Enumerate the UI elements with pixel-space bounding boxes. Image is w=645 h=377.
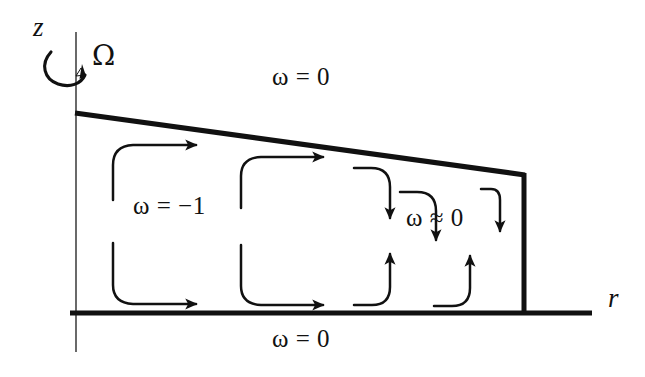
rotation-rate-label: Ω <box>92 42 115 70</box>
right-cell-vorticity-label: ω ≈ 0 <box>406 205 464 230</box>
left-cell-vorticity-label: ω = −1 <box>133 193 206 218</box>
r-axis-label: r <box>608 285 619 312</box>
streamline-cell-2 <box>241 157 390 305</box>
top-boundary-condition-label: ω = 0 <box>272 64 330 89</box>
flow-diagram: z Ω ω = 0 ω = −1 ω ≈ 0 ω = 0 r <box>0 0 645 377</box>
bottom-boundary-condition-label: ω = 0 <box>272 326 330 351</box>
streamline-cell-1 <box>113 145 196 304</box>
z-axis-label: z <box>33 14 44 41</box>
